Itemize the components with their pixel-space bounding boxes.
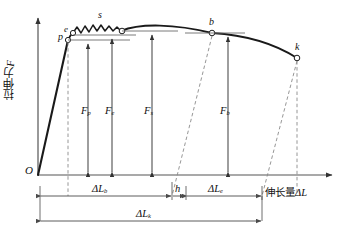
label-dim-dlk-base: ΔL — [136, 208, 148, 219]
chart-canvas — [0, 0, 346, 247]
label-point-b: b — [209, 17, 214, 27]
curve-group — [38, 25, 297, 175]
origin-label: O — [25, 165, 33, 176]
yield-plateau-zigzag — [73, 25, 121, 33]
label-force-fe: Fe — [105, 106, 114, 117]
label-dim-dle-base: ΔL — [208, 183, 220, 194]
point-k[interactable] — [294, 55, 300, 61]
force-level-lines — [68, 31, 245, 40]
necking-curve — [212, 33, 297, 58]
dashed-drop-lines — [68, 36, 297, 196]
x-axis-label: 伸长量ΔL — [265, 187, 307, 199]
label-dim-dlk: ΔLk — [136, 209, 151, 220]
tensile-test-diagram: 拉伸力F O 伸长量ΔL p e s b k Fp Fe Fs Fb ΔLb h… — [0, 0, 346, 247]
x-axis-label-text: 伸长量 — [265, 186, 295, 198]
dimension-row-lower — [40, 196, 262, 221]
label-dim-dlb-base: ΔL — [92, 183, 104, 194]
x-axis-label-symbol: ΔL — [295, 187, 307, 198]
label-dim-dlb-sub: b — [104, 187, 107, 194]
label-force-fp-sub: p — [87, 109, 90, 116]
dashed-line-b-slanted — [172, 36, 212, 196]
label-dim-dle-sub: e — [220, 187, 223, 194]
label-point-p: p — [58, 32, 63, 42]
strain-hardening-curve — [121, 26, 212, 33]
label-dim-dle: ΔLe — [208, 184, 223, 195]
y-axis-label-text: 拉伸力 — [3, 67, 16, 100]
label-dim-h: h — [175, 184, 180, 195]
label-point-e: e — [64, 25, 68, 34]
dashed-line-k-slanted — [262, 61, 297, 196]
label-point-s: s — [98, 10, 102, 20]
dimension-row-upper — [40, 182, 262, 200]
point-markers — [65, 28, 299, 61]
label-point-k: k — [295, 42, 299, 52]
elastic-region-line — [38, 40, 68, 175]
label-dim-dlk-sub: k — [148, 212, 151, 219]
y-axis-label: 拉伸力F — [4, 60, 18, 100]
label-force-fs: Fs — [144, 106, 153, 117]
label-force-fb: Fb — [220, 106, 230, 117]
label-force-fe-sub: e — [111, 109, 114, 116]
label-dim-dlb: ΔLb — [92, 184, 107, 195]
label-force-fp: Fp — [81, 106, 91, 117]
y-axis-label-symbol: F — [4, 60, 16, 67]
label-force-fb-sub: b — [226, 109, 229, 116]
label-force-fs-sub: s — [150, 109, 153, 116]
